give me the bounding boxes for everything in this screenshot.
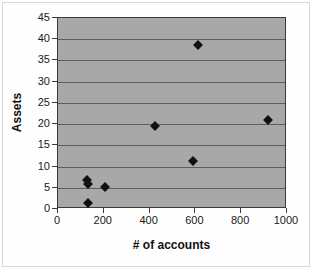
x-tick-mark [194, 208, 195, 213]
y-tick-mark [52, 102, 57, 103]
gridline [58, 82, 285, 83]
y-tick-mark [52, 144, 57, 145]
x-tick-label: 400 [124, 215, 174, 226]
y-tick-mark [52, 59, 57, 60]
plot-area [57, 17, 286, 208]
gridline [58, 39, 285, 40]
x-tick-label: 0 [32, 215, 82, 226]
x-tick-mark [57, 208, 58, 213]
y-tick-mark [52, 81, 57, 82]
y-tick-mark [52, 123, 57, 124]
gridline [58, 60, 285, 61]
x-axis-title: # of accounts [57, 238, 286, 252]
x-tick-mark [103, 208, 104, 213]
x-tick-mark [286, 208, 287, 213]
x-tick-label: 1000 [261, 215, 311, 226]
gridline [58, 103, 285, 104]
x-tick-mark [149, 208, 150, 213]
x-tick-label: 200 [78, 215, 128, 226]
y-axis-title: Assets [9, 17, 26, 208]
scatter-chart-figure: 051015202530354045 02004006008001000 Ass… [0, 0, 313, 270]
y-tick-mark [52, 17, 57, 18]
gridline [58, 145, 285, 146]
gridline [58, 167, 285, 168]
y-tick-mark [52, 187, 57, 188]
x-tick-label: 600 [169, 215, 219, 226]
y-tick-mark [52, 166, 57, 167]
x-tick-mark [240, 208, 241, 213]
gridline [58, 124, 285, 125]
gridline [58, 188, 285, 189]
y-tick-mark [52, 38, 57, 39]
gridlines [58, 18, 285, 207]
x-tick-label: 800 [215, 215, 265, 226]
